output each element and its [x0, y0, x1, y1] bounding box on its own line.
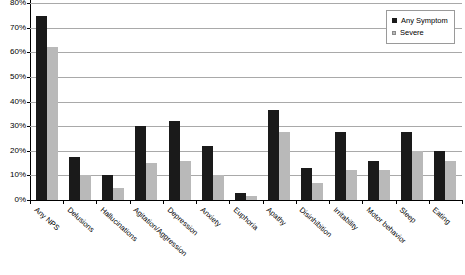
bar-severe	[213, 175, 224, 200]
bar-any-symptom	[301, 168, 312, 200]
black-square-icon	[392, 18, 397, 23]
bar-severe	[113, 188, 124, 200]
y-tick-mark	[27, 52, 30, 53]
y-axis-tick-label: 40%	[10, 98, 26, 106]
x-tick-mark	[329, 200, 330, 204]
y-tick-mark	[27, 102, 30, 103]
x-axis-label: Sleep	[398, 206, 417, 224]
bar-severe	[146, 163, 157, 200]
legend-label-any-symptom: Any Symptom	[401, 17, 448, 25]
x-axis-label: Delusions	[66, 206, 95, 234]
x-tick-mark	[263, 200, 264, 204]
y-axis-tick-label: 10%	[10, 171, 26, 179]
x-tick-mark	[163, 200, 164, 204]
bar-any-symptom	[69, 157, 80, 200]
bar-severe	[379, 170, 390, 200]
gridline	[30, 151, 462, 152]
x-tick-mark	[296, 200, 297, 204]
bar-any-symptom	[235, 193, 246, 200]
y-tick-mark	[27, 151, 30, 152]
gridline	[30, 52, 462, 53]
y-tick-mark	[27, 3, 30, 4]
x-tick-mark	[96, 200, 97, 204]
bar-severe	[412, 151, 423, 200]
chart-legend: Any Symptom Severe	[386, 10, 455, 44]
legend-item-severe: Severe	[392, 27, 448, 38]
y-axis-tick-label: 30%	[10, 122, 26, 130]
x-axis-line	[30, 200, 462, 201]
bar-any-symptom	[401, 132, 412, 200]
x-axis-label: Irritability	[332, 206, 359, 232]
x-axis-label: Any NPS	[33, 206, 61, 232]
bar-any-symptom	[169, 121, 180, 200]
x-tick-mark	[462, 200, 463, 204]
x-tick-mark	[63, 200, 64, 204]
bar-severe	[47, 47, 58, 200]
bar-severe	[445, 161, 456, 200]
x-axis-label: Euphoria	[232, 206, 259, 232]
x-axis-label: Disinhibition	[298, 206, 333, 239]
y-axis-tick-label: 60%	[10, 48, 26, 56]
bar-severe	[279, 132, 290, 200]
bar-severe	[80, 175, 91, 200]
y-tick-mark	[27, 175, 30, 176]
x-tick-mark	[229, 200, 230, 204]
bar-any-symptom	[135, 126, 146, 200]
gridline	[30, 77, 462, 78]
gray-square-icon	[392, 31, 396, 35]
bar-severe	[246, 196, 257, 200]
y-axis-tick-label: 20%	[10, 147, 26, 155]
bar-any-symptom	[335, 132, 346, 200]
bar-chart: Any Symptom Severe 0%10%20%30%40%50%60%7…	[0, 0, 465, 275]
x-axis-label: Apathy	[265, 206, 287, 227]
y-tick-mark	[27, 126, 30, 127]
x-tick-mark	[196, 200, 197, 204]
bar-any-symptom	[102, 175, 113, 200]
gridline	[30, 175, 462, 176]
bar-any-symptom	[268, 110, 279, 200]
x-tick-mark	[396, 200, 397, 204]
bar-any-symptom	[202, 146, 213, 200]
legend-item-any-symptom: Any Symptom	[392, 15, 448, 26]
x-tick-mark	[130, 200, 131, 204]
gridline	[30, 3, 462, 4]
x-axis-label: Anxiety	[199, 206, 222, 228]
y-axis-tick-label: 50%	[10, 73, 26, 81]
y-axis-tick-label: 80%	[10, 0, 26, 7]
y-axis-tick-label: 70%	[10, 24, 26, 32]
x-tick-mark	[362, 200, 363, 204]
legend-label-severe: Severe	[400, 29, 424, 37]
bar-any-symptom	[36, 16, 47, 201]
bar-any-symptom	[434, 151, 445, 200]
gridline	[30, 102, 462, 103]
bar-severe	[180, 161, 191, 200]
gridline	[30, 126, 462, 127]
y-axis-tick-label: 0%	[14, 196, 26, 204]
bar-any-symptom	[368, 161, 379, 200]
y-tick-mark	[27, 28, 30, 29]
y-tick-mark	[27, 77, 30, 78]
bar-severe	[346, 170, 357, 200]
x-axis-label: Depression	[166, 206, 199, 237]
x-tick-mark	[429, 200, 430, 204]
x-axis-label: Eating	[431, 206, 452, 226]
bar-severe	[312, 183, 323, 200]
x-tick-mark	[30, 200, 31, 204]
